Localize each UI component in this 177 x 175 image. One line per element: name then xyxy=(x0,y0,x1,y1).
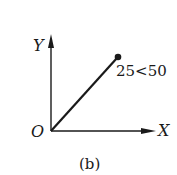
y-axis-label: Y xyxy=(33,38,44,54)
y-axis-arrow-icon xyxy=(48,34,54,48)
vector-line xyxy=(51,58,117,131)
x-axis-label: X xyxy=(158,123,169,139)
axes-diagram xyxy=(0,0,177,175)
x-axis-arrow-icon xyxy=(141,128,156,134)
vector-label: 25<50 xyxy=(116,64,167,79)
figure-caption: (b) xyxy=(79,157,100,172)
origin-label: O xyxy=(31,124,44,140)
vector-endpoint-dot xyxy=(115,54,122,61)
